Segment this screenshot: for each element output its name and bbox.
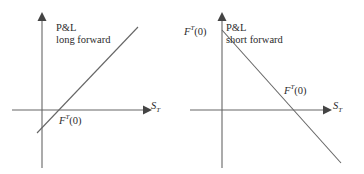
forward-payoff-figure: P&L long forward FT(0) ST FT(0) P&L shor (0, 0, 364, 174)
x-axis-arrowhead (323, 106, 332, 115)
short-forward-chart-panel: FT(0) P&L short forward FT(0) ST (182, 0, 364, 174)
short-forward-strike-label: FT(0) (284, 83, 307, 97)
long-strike-arg: (0) (69, 115, 81, 126)
short-forward-payoff-line (222, 30, 341, 163)
short-x-axis-subscript: T (338, 106, 342, 114)
long-forward-strike-label: FT(0) (59, 113, 82, 127)
y-axis-arrowhead (218, 12, 227, 21)
short-strike-arg: (0) (294, 85, 306, 96)
y-axis-arrowhead (38, 12, 47, 21)
short-forward-title-line1: P&L (226, 22, 246, 33)
short-forward-y-intercept-label: FT(0) (184, 24, 207, 38)
short-forward-x-axis-label: ST (333, 100, 342, 114)
short-forward-title: P&L short forward (226, 22, 283, 47)
long-x-axis-subscript: T (156, 106, 160, 114)
long-forward-x-axis-label: ST (151, 100, 160, 114)
short-forward-title-line2: short forward (226, 34, 283, 46)
long-forward-title-line2: long forward (56, 34, 111, 46)
long-forward-chart-panel: P&L long forward FT(0) ST (0, 0, 182, 174)
long-forward-title: P&L long forward (56, 22, 111, 47)
long-forward-title-line1: P&L (56, 22, 76, 33)
short-y-intercept-arg: (0) (194, 26, 206, 37)
